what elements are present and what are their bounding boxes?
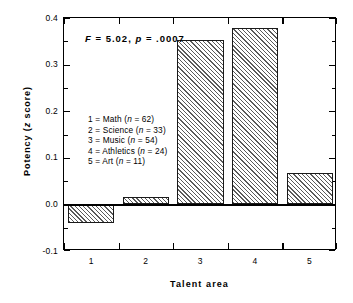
bar-2 (123, 197, 169, 204)
y-major-tick-5 (64, 250, 70, 251)
legend-item-5: 5 = Art (n = 11) (88, 156, 167, 167)
legend-label-5: Art (102, 156, 113, 166)
bar-5 (287, 173, 333, 204)
legend-key-1: 1 (88, 114, 93, 124)
legend-item-1: 1 = Math (n = 62) (88, 114, 167, 125)
bar-3 (177, 40, 223, 205)
legend-n-symbol-3: n (131, 135, 136, 145)
zero-baseline (64, 204, 335, 205)
y-tick-label-5: -0.1 (43, 247, 58, 256)
y-tick-label-1: 0.3 (46, 60, 58, 69)
legend-item-2: 2 = Science (n = 33) (88, 125, 167, 136)
x-tick-label-4: 5 (294, 257, 324, 266)
legend-eq-5: = (95, 156, 100, 166)
y-axis-title-pre: Potency ( (22, 127, 32, 176)
y-tick-label-2: 0.2 (46, 107, 58, 116)
legend-key-4: 4 (88, 146, 93, 156)
legend-n-value-2: = 33) (146, 125, 166, 135)
bar-1 (68, 204, 114, 223)
x-major-tick-5 (336, 243, 337, 249)
f-symbol: F (85, 33, 92, 44)
x-major-tick-top-5 (336, 18, 337, 24)
y-major-tick-right-5 (329, 250, 335, 251)
x-tick-label-3: 4 (240, 257, 270, 266)
p-symbol: p (135, 33, 142, 44)
p-value: = .0007 (146, 33, 185, 44)
x-tick-label-0: 1 (76, 257, 106, 266)
legend-item-4: 4 = Athletics (n = 24) (88, 146, 167, 157)
stat-annotation: F = 5.02, p = .0007 (85, 33, 185, 44)
y-tick-label-0: 0.4 (46, 14, 58, 23)
y-tick-label-4: 0.0 (46, 200, 58, 209)
legend-n-symbol-5: n (119, 156, 124, 166)
plot-area: F = 5.02, p = .0007 1 = Math (n = 62) 2 … (63, 17, 336, 250)
f-value: = 5.02, (95, 33, 131, 44)
legend-n-symbol-1: n (127, 114, 132, 124)
legend-eq-1: = (95, 114, 100, 124)
legend-key-3: 3 (88, 135, 93, 145)
legend-label-3: Music (103, 135, 125, 145)
legend-key-2: 2 (88, 125, 93, 135)
x-tick-label-2: 3 (185, 257, 215, 266)
legend-key-5: 5 (88, 156, 93, 166)
y-tick-label-3: 0.1 (46, 153, 58, 162)
bar-4 (232, 28, 278, 204)
x-axis-title: Talent area (63, 279, 336, 289)
legend-n-symbol-2: n (139, 125, 144, 135)
x-tick-label-1: 2 (131, 257, 161, 266)
legend-eq-2: = (95, 125, 100, 135)
legend: 1 = Math (n = 62) 2 = Science (n = 33) 3… (88, 114, 167, 167)
y-axis-title: Potency (z score) (22, 51, 32, 211)
legend-label-4: Athletics (102, 146, 135, 156)
legend-n-value-1: = 62) (134, 114, 154, 124)
legend-label-1: Math (103, 114, 122, 124)
legend-label-2: Science (103, 125, 134, 135)
legend-n-value-5: = 11) (126, 156, 145, 166)
legend-n-symbol-4: n (140, 146, 145, 156)
legend-eq-4: = (95, 146, 100, 156)
y-axis-title-z: z (22, 122, 32, 127)
bar-chart-figure: 0.4 0.3 0.2 0.1 0.0 -0.1 1 2 3 4 5 (0, 0, 353, 303)
y-axis-title-post: score) (22, 86, 32, 122)
legend-item-3: 3 = Music (n = 54) (88, 135, 167, 146)
legend-eq-3: = (95, 135, 100, 145)
legend-n-value-3: = 54) (138, 135, 158, 145)
legend-n-value-4: = 24) (148, 146, 168, 156)
